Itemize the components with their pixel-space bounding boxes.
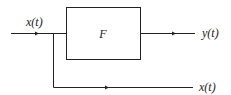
input-arrow-icon — [35, 32, 39, 36]
block-diagram: F x(t) y(t) x(t) — [0, 0, 231, 95]
branch-arrow-icon — [105, 86, 109, 90]
input-label: x(t) — [25, 15, 43, 29]
output-arrow-icon — [172, 32, 176, 36]
output-label: y(t) — [201, 26, 219, 40]
branch-output-label: x(t) — [198, 80, 216, 94]
block-label: F — [98, 27, 107, 41]
